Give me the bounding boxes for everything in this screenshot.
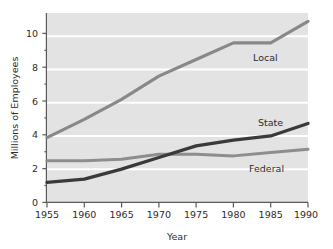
series-label-local: Local	[253, 52, 278, 63]
x-tick-label-1960: 1960	[72, 209, 96, 220]
y-tick-label-10: 10	[26, 28, 38, 39]
x-tick-label-1965: 1965	[110, 209, 134, 220]
y-tick-label-8: 8	[32, 62, 38, 73]
x-axis-title: Year	[166, 231, 187, 242]
y-tick-label-6: 6	[32, 96, 38, 107]
y-tick-label-4: 4	[32, 129, 38, 140]
y-tick-label-0: 0	[32, 197, 38, 208]
y-tick-label-2: 2	[32, 163, 38, 174]
chart-figure-root: 10 8 6 4 2 0 1955 1960 1965 1970 1975 19…	[0, 0, 333, 249]
x-tick-label-1955: 1955	[35, 209, 59, 220]
x-tick-label-1970: 1970	[147, 209, 171, 220]
y-axis-title: Millions of Employees	[9, 57, 20, 160]
x-tick-label-1990: 1990	[294, 209, 318, 220]
series-label-federal: Federal	[249, 163, 284, 174]
x-tick-label-1985: 1985	[259, 209, 283, 220]
x-tick-label-1980: 1980	[221, 209, 245, 220]
series-label-state: State	[258, 117, 283, 128]
employment-line-chart: 10 8 6 4 2 0 1955 1960 1965 1970 1975 19…	[0, 0, 333, 249]
x-tick-label-1975: 1975	[184, 209, 208, 220]
